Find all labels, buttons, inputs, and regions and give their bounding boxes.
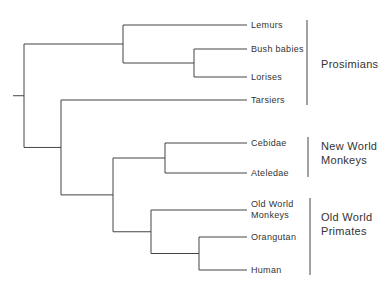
- group-label-new-world-monkeys: New WorldMonkeys: [321, 140, 377, 166]
- taxon-label-lemurs: Lemurs: [251, 20, 283, 30]
- taxon-label-human: Human: [251, 265, 282, 275]
- taxon-label-lorises: Lorises: [251, 72, 282, 82]
- taxon-label-cebidae: Cebidae: [251, 138, 287, 148]
- group-label-old-world-primates: Old WorldPrimates: [321, 211, 372, 237]
- phylogenetic-tree: LemursBush babiesLorisesTarsiersCebidaeA…: [0, 0, 387, 290]
- taxon-label-old-world-monkeys: Old WorldMonkeys: [251, 199, 294, 220]
- group-label-prosimians: Prosimians: [321, 58, 379, 70]
- taxon-label-bush-babies: Bush babies: [251, 44, 304, 54]
- taxon-label-orangutan: Orangutan: [251, 232, 296, 242]
- taxon-labels: LemursBush babiesLorisesTarsiersCebidaeA…: [251, 20, 304, 275]
- group-brackets: ProsimiansNew WorldMonkeysOld WorldPrima…: [307, 20, 379, 275]
- taxon-label-ateledae: Ateledae: [251, 168, 289, 178]
- tree-branches: [13, 25, 247, 270]
- taxon-label-tarsiers: Tarsiers: [251, 95, 285, 105]
